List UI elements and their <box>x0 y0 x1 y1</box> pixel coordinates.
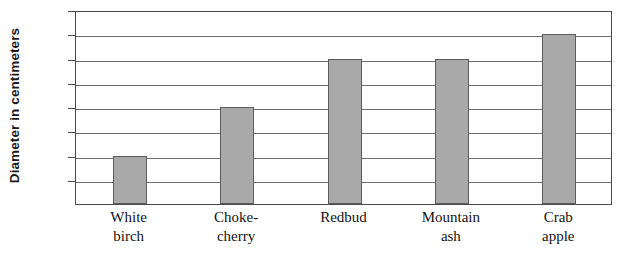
x-axis-label-line2: ash <box>397 227 504 246</box>
y-tick-mark <box>68 157 75 158</box>
y-tick-mark <box>68 35 75 36</box>
x-axis-labels: WhitebirchChoke-cherryRedbudMountainashC… <box>75 208 612 263</box>
x-axis-label: Mountainash <box>397 208 504 246</box>
plot-area <box>75 11 612 205</box>
x-axis-label: Whitebirch <box>75 208 182 246</box>
y-tick-mark <box>68 60 75 61</box>
x-axis-label-line2: cherry <box>182 227 289 246</box>
bar[interactable] <box>542 34 576 204</box>
bar-chart: Diameter in centimeters 403530252015105 … <box>0 0 622 265</box>
bar[interactable] <box>328 59 362 205</box>
x-axis-label-line2: apple <box>505 227 612 246</box>
x-axis-label-line1: Crab <box>544 209 573 225</box>
bar[interactable] <box>113 156 147 205</box>
x-axis-label-line1: Choke- <box>214 209 258 225</box>
y-tick-mark <box>68 132 75 133</box>
y-tick-mark <box>68 181 75 182</box>
gridline <box>76 36 611 37</box>
x-axis-label-line1: Mountain <box>422 209 480 225</box>
x-axis-label-line1: White <box>110 209 147 225</box>
y-tick-mark <box>68 108 75 109</box>
x-axis-label-line1: Redbud <box>320 209 367 225</box>
bar[interactable] <box>220 107 254 204</box>
y-axis-scale: 403530252015105 <box>0 0 75 265</box>
bar[interactable] <box>435 59 469 205</box>
x-axis-label: Redbud <box>290 208 397 227</box>
x-axis-label-line2: birch <box>75 227 182 246</box>
x-axis-label: Choke-cherry <box>182 208 289 246</box>
y-tick-mark <box>68 84 75 85</box>
y-tick-mark <box>68 11 75 12</box>
x-axis-label: Crabapple <box>505 208 612 246</box>
